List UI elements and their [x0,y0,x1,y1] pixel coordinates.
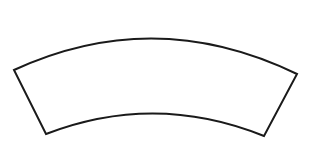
curved-band-shape [0,0,311,150]
drawing-canvas [0,0,311,150]
